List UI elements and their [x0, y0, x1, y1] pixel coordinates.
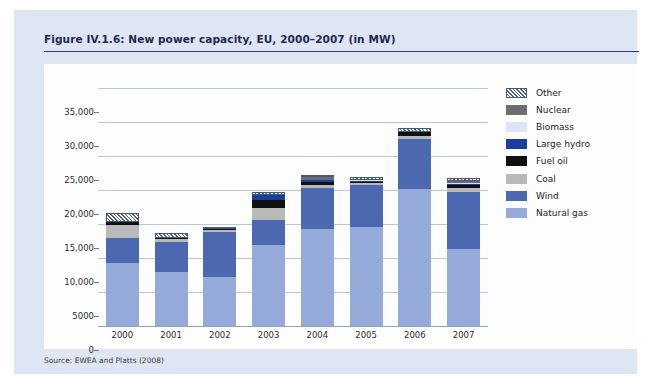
bar-segment-fuel-oil — [350, 182, 383, 183]
bar-segment-large-hydro — [252, 195, 285, 200]
x-axis-tick-label: 2003 — [244, 330, 293, 340]
chart-legend: OtherNuclearBiomassLarge hydroFuel oilCo… — [506, 84, 631, 222]
legend-label: Large hydro — [536, 139, 590, 149]
bar-segment-biomass — [350, 180, 383, 181]
bar-group[interactable] — [301, 88, 334, 326]
legend-item[interactable]: Biomass — [506, 118, 631, 135]
y-axis-tick-label: 10,000 — [44, 277, 94, 287]
source-note: Source: EWEA and Platts (2008) — [44, 356, 164, 365]
bar-segment-other — [398, 128, 431, 131]
legend-label: Nuclear — [536, 105, 571, 115]
x-axis-tick-label: 2006 — [391, 330, 440, 340]
bar-segment-natural-gas — [203, 277, 236, 326]
bar-group[interactable] — [447, 88, 480, 326]
bar-segment-nuclear — [447, 181, 480, 183]
legend-swatch-natural-gas — [506, 208, 527, 218]
bar-segment-other — [203, 227, 236, 230]
x-axis-tick-label: 2004 — [293, 330, 342, 340]
bar-segment-coal — [398, 136, 431, 139]
x-axis-tick-label: 2002 — [196, 330, 245, 340]
x-axis-tick-label: 2005 — [342, 330, 391, 340]
x-axis-tick-label: 2000 — [98, 330, 147, 340]
x-axis-tick-label: 2001 — [147, 330, 196, 340]
bar-segment-wind — [155, 242, 188, 273]
bar-group[interactable] — [398, 88, 431, 326]
bar-segment-other — [301, 175, 334, 177]
bar-stack — [301, 88, 334, 326]
y-axis-tick-label: 20,000 — [44, 209, 94, 219]
bar-group[interactable] — [252, 88, 285, 326]
legend-swatch-nuclear — [506, 105, 527, 115]
bar-stack — [447, 88, 480, 326]
legend-label: Other — [536, 88, 562, 98]
y-axis-tick-label: 25,000 — [44, 175, 94, 185]
figure-container: Figure IV.1.6: New power capacity, EU, 2… — [0, 0, 651, 384]
bar-segment-biomass — [447, 183, 480, 184]
bar-segment-wind — [301, 188, 334, 229]
bar-stack — [252, 88, 285, 326]
bar-stack — [106, 88, 139, 326]
bar-group[interactable] — [203, 88, 236, 326]
legend-swatch-biomass — [506, 122, 527, 132]
bar-segment-wind — [398, 139, 431, 189]
x-axis-tick-label: 2007 — [439, 330, 488, 340]
bar-segment-large-hydro — [301, 180, 334, 182]
bar-stack — [155, 88, 188, 326]
bar-segment-wind — [350, 185, 383, 228]
bar-segment-fuel-oil — [447, 185, 480, 188]
title-divider — [44, 51, 639, 52]
bar-segment-fuel-oil — [398, 132, 431, 136]
legend-item[interactable]: Nuclear — [506, 101, 631, 118]
gridline — [98, 326, 488, 327]
x-axis-labels: 20002001200220032004200520062007 — [98, 330, 488, 344]
bar-group[interactable] — [350, 88, 383, 326]
legend-label: Coal — [536, 174, 556, 184]
bar-group[interactable] — [155, 88, 188, 326]
bar-stack — [203, 88, 236, 326]
bar-group[interactable] — [106, 88, 139, 326]
bar-segment-other — [155, 233, 188, 238]
bar-segment-other — [350, 177, 383, 180]
legend-swatch-fuel-oil — [506, 156, 527, 166]
y-axis-tick-label: 0 — [44, 345, 94, 355]
bar-segment-coal — [350, 183, 383, 184]
bar-segment-other — [252, 192, 285, 194]
legend-swatch-other — [506, 88, 527, 98]
bar-segment-coal — [301, 185, 334, 188]
figure-panel: Figure IV.1.6: New power capacity, EU, 2… — [14, 10, 637, 374]
bar-segment-large-hydro — [350, 181, 383, 182]
bar-segment-natural-gas — [447, 249, 480, 326]
bar-segment-fuel-oil — [301, 182, 334, 185]
legend-item[interactable]: Coal — [506, 170, 631, 187]
legend-item[interactable]: Natural gas — [506, 204, 631, 221]
y-axis-labels: 0500010,00015,00020,00025,00030,00035,00… — [44, 88, 94, 326]
y-axis-tick-label: 35,000 — [44, 107, 94, 117]
legend-swatch-large-hydro — [506, 139, 527, 149]
bar-segment-wind — [106, 238, 139, 263]
bar-segment-fuel-oil — [106, 222, 139, 225]
legend-label: Fuel oil — [536, 156, 568, 166]
plot-area — [98, 88, 488, 326]
bar-segment-coal — [155, 239, 188, 241]
y-axis-tick-label: 30,000 — [44, 141, 94, 151]
y-axis-tick-label: 5000 — [44, 311, 94, 321]
bar-segment-coal — [447, 188, 480, 192]
bar-stack — [398, 88, 431, 326]
bar-segment-natural-gas — [155, 272, 188, 326]
legend-item[interactable]: Other — [506, 84, 631, 101]
legend-swatch-wind — [506, 191, 527, 201]
bar-segment-wind — [252, 220, 285, 245]
bar-segment-other — [106, 213, 139, 222]
bar-segment-natural-gas — [252, 245, 285, 326]
legend-item[interactable]: Wind — [506, 187, 631, 204]
bar-segment-wind — [203, 232, 236, 277]
bar-segment-wind — [447, 192, 480, 249]
y-axis-tick-label: 15,000 — [44, 243, 94, 253]
legend-item[interactable]: Fuel oil — [506, 153, 631, 170]
bar-stack — [350, 88, 383, 326]
page-title: Figure IV.1.6: New power capacity, EU, 2… — [44, 32, 639, 46]
legend-item[interactable]: Large hydro — [506, 136, 631, 153]
bar-segment-natural-gas — [301, 229, 334, 326]
bar-segment-natural-gas — [398, 189, 431, 326]
legend-label: Biomass — [536, 122, 574, 132]
